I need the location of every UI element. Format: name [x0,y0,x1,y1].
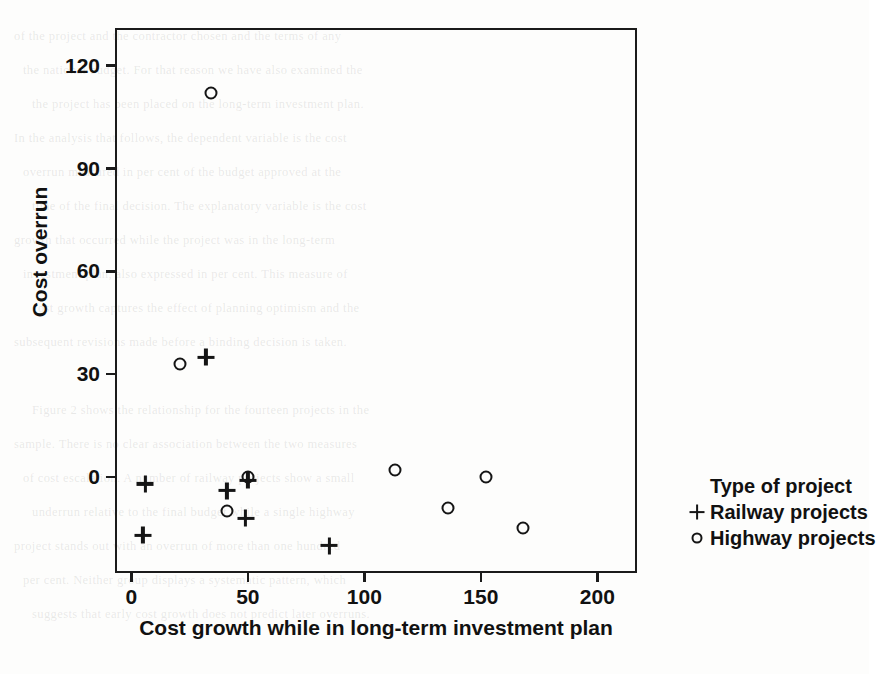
y-axis-tick-label: 0 [30,465,100,489]
x-axis-tick-label: 200 [557,585,637,609]
y-axis-tick-label: 30 [30,362,100,386]
data-point-highway[interactable] [204,87,217,100]
data-point-highway[interactable] [516,522,529,535]
plot-area-frame [115,28,637,573]
y-axis-label: Cost overrun [28,152,52,352]
data-point-railway[interactable] [134,527,151,544]
data-point-railway[interactable] [137,475,154,492]
x-axis-tick [130,573,133,582]
x-axis-tick [247,573,250,582]
legend-circle-icon [688,526,710,550]
legend-entry[interactable]: Railway projects [688,499,868,525]
y-axis-tick [106,64,115,67]
legend-plus-icon [688,500,710,524]
data-point-highway[interactable] [388,464,401,477]
legend-title: Type of project [710,473,868,499]
chart-legend: Type of project Railway projectsHighway … [688,473,868,551]
legend-entries: Railway projectsHighway projects [688,499,868,551]
data-point-highway[interactable] [241,471,254,484]
circle-marker-icon [692,533,703,544]
data-point-highway[interactable] [174,357,187,370]
x-axis-tick-label: 0 [91,585,171,609]
legend-entry-label: Railway projects [710,499,868,525]
x-axis-tick-label: 150 [441,585,521,609]
data-point-highway[interactable] [442,501,455,514]
data-point-highway[interactable] [220,505,233,518]
x-axis-label: Cost growth while in long-term investmen… [115,616,637,640]
y-axis-tick [106,476,115,479]
data-point-railway[interactable] [321,537,338,554]
data-point-railway[interactable] [218,482,235,499]
y-axis-tick [106,270,115,273]
y-axis-tick [106,167,115,170]
data-point-railway[interactable] [197,349,214,366]
data-point-railway[interactable] [237,510,254,527]
data-point-highway[interactable] [479,471,492,484]
x-axis-tick [596,573,599,582]
y-axis-tick [106,373,115,376]
x-axis-tick [363,573,366,582]
plus-marker-icon [690,505,705,520]
y-axis-tick-label: 120 [30,54,100,78]
x-axis-tick [480,573,483,582]
x-axis-tick-label: 100 [324,585,404,609]
legend-entry-label: Highway projects [710,525,876,551]
legend-entry[interactable]: Highway projects [688,525,868,551]
x-axis-tick-label: 50 [208,585,288,609]
